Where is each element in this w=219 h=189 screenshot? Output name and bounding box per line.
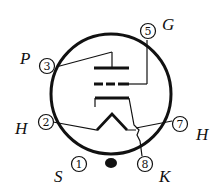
pin-label-heater-left: H [14,119,29,138]
pin-2: 2 H [14,115,54,139]
pin-number: 2 [43,116,50,129]
pin-7: 7 H [173,117,211,145]
pin-label-plate: P [19,49,30,68]
pin-label-shield: S [54,167,63,186]
pin-label-cathode: K [158,167,172,186]
pin-5: 5 G [141,15,175,39]
pin-number: 7 [177,118,184,131]
tube-pinout-diagram: 5 G 3 P 2 H 7 H 1 S 8 K [0,0,219,189]
pin-number: 3 [44,60,51,73]
pin-3: 3 P [19,49,55,74]
base-key [105,158,117,168]
grid-element [94,40,147,84]
pin-number: 5 [145,25,152,38]
pin-8: 8 K [138,157,173,187]
pin-number: 8 [142,158,149,171]
pin-label-heater-right: H [195,125,210,144]
cathode-element [95,98,142,156]
pin-1: 1 S [54,157,87,187]
pin-label-grid: G [162,15,174,34]
heater-element [53,114,172,130]
pin-number: 1 [76,158,83,171]
